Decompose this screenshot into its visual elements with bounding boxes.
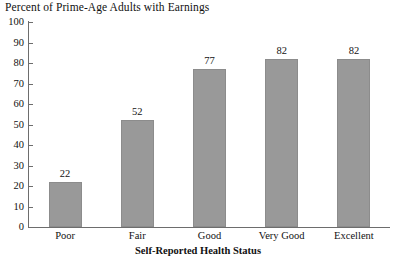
bar <box>337 59 370 227</box>
y-axis-tick <box>29 166 33 167</box>
x-axis-title: Self-Reported Health Status <box>0 245 396 257</box>
y-axis-tick <box>29 104 33 105</box>
y-axis-tick <box>29 186 33 187</box>
y-axis-tick <box>29 84 33 85</box>
x-axis-category-label: Excellent <box>309 230 396 242</box>
bar-value-label: 77 <box>185 55 235 66</box>
chart-container: Percent of Prime-Age Adults with Earning… <box>0 0 396 263</box>
y-axis-tick-label: 60 <box>0 99 24 109</box>
y-axis-tick-label: 20 <box>0 181 24 191</box>
y-axis-tick <box>29 43 33 44</box>
y-axis-tick-label: 80 <box>0 58 24 68</box>
x-axis-line <box>28 227 390 228</box>
bar <box>121 120 154 227</box>
y-axis-tick-label: 10 <box>0 202 24 212</box>
chart-title: Percent of Prime-Age Adults with Earning… <box>5 1 209 14</box>
y-axis-tick-label: 90 <box>0 38 24 48</box>
bar <box>49 182 82 227</box>
bar <box>265 59 298 227</box>
y-axis-tick <box>29 227 33 228</box>
y-axis-tick-label: 100 <box>0 17 24 27</box>
y-axis-tick <box>29 63 33 64</box>
bar <box>193 69 226 227</box>
bar-value-label: 52 <box>112 106 162 117</box>
y-axis-tick-label: 40 <box>0 140 24 150</box>
y-axis-tick <box>29 207 33 208</box>
y-axis-tick-label: 70 <box>0 79 24 89</box>
y-axis-tick <box>29 145 33 146</box>
y-axis-tick <box>29 125 33 126</box>
bar-value-label: 22 <box>40 168 90 179</box>
bar-value-label: 82 <box>329 45 379 56</box>
y-axis-tick <box>29 22 33 23</box>
y-axis-tick-label: 30 <box>0 161 24 171</box>
bar-value-label: 82 <box>257 45 307 56</box>
y-axis-tick-label: 50 <box>0 120 24 130</box>
